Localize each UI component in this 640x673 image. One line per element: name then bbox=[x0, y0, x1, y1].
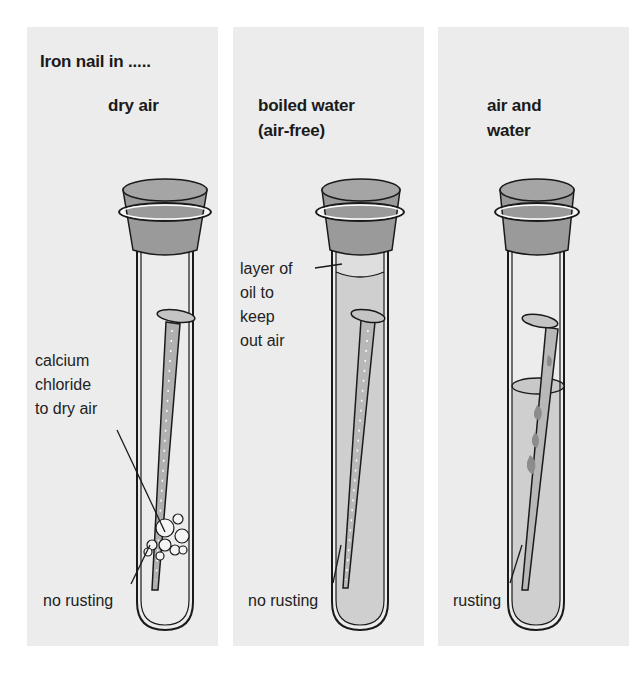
condition-water: water bbox=[487, 118, 530, 143]
condition-dry-air: dry air bbox=[108, 93, 159, 118]
condition-air-free: (air-free) bbox=[258, 118, 325, 143]
condition-boiled-water: boiled water bbox=[258, 93, 355, 118]
label-calcium-chloride-2: chloride bbox=[35, 374, 91, 396]
result-no-rusting-dry-air: no rusting bbox=[43, 590, 113, 612]
label-oil-layer-3: keep bbox=[240, 306, 275, 328]
condition-air-and: air and bbox=[487, 93, 541, 118]
heading: Iron nail in ..... bbox=[40, 49, 151, 74]
label-oil-layer-2: oil to bbox=[240, 282, 274, 304]
label-oil-layer-1: layer of bbox=[240, 258, 292, 280]
result-rusting: rusting bbox=[453, 590, 501, 612]
test-tube-air-and-water bbox=[495, 179, 579, 630]
label-calcium-chloride-1: calcium bbox=[35, 350, 89, 372]
label-calcium-chloride-3: to dry air bbox=[35, 398, 97, 420]
test-tube-dry-air bbox=[117, 179, 211, 630]
test-tube-boiled-water bbox=[315, 179, 404, 630]
result-no-rusting-boiled-water: no rusting bbox=[248, 590, 318, 612]
label-oil-layer-4: out air bbox=[240, 330, 284, 352]
